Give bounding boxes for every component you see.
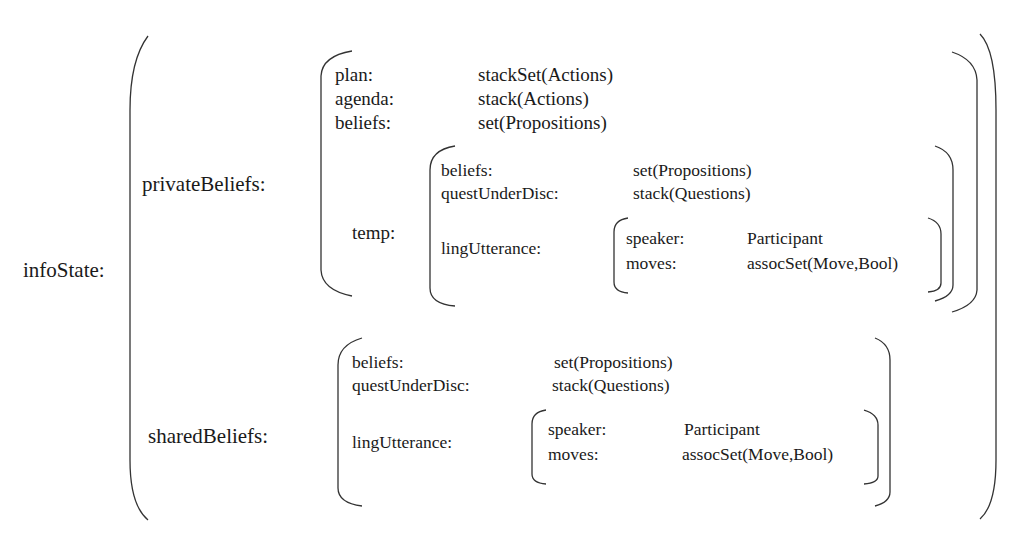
temp-questUnderDisc-key: questUnderDisc: [441, 185, 559, 203]
temp-beliefs-key: beliefs: [441, 162, 493, 180]
shared-speaker-value: Participant [684, 421, 760, 439]
sharedBeliefs-right-bracket [875, 338, 890, 506]
sharedBeliefs-label: sharedBeliefs: [148, 426, 268, 447]
privateBeliefs-right-bracket [952, 52, 977, 312]
shared-moves-value: assocSet(Move,Bool) [682, 446, 833, 464]
shared-questUnderDisc-key: questUnderDisc: [352, 377, 470, 395]
shared-lingUtterance-right-bracket [864, 410, 878, 484]
shared-lingUtterance-label: lingUtterance: [352, 434, 452, 452]
temp-right-bracket [935, 146, 953, 301]
plan-value: stackSet(Actions) [478, 65, 613, 84]
temp-beliefs-value: set(Propositions) [633, 162, 752, 180]
agenda-key: agenda: [335, 89, 394, 108]
agenda-value: stack(Actions) [478, 89, 589, 108]
temp-moves-key: moves: [626, 255, 677, 273]
shared-lingUtterance-left-bracket [532, 410, 546, 484]
shared-moves-key: moves: [548, 446, 599, 464]
shared-questUnderDisc-value: stack(Questions) [552, 377, 670, 395]
shared-speaker-key: speaker: [548, 421, 606, 439]
shared-beliefs-value: set(Propositions) [554, 354, 673, 372]
private-beliefs-value: set(Propositions) [478, 113, 607, 132]
temp-speaker-key: speaker: [626, 230, 684, 248]
private-beliefs-key: beliefs: [335, 113, 391, 132]
plan-key: plan: [335, 65, 373, 84]
temp-lingUtterance-label: lingUtterance: [441, 240, 541, 258]
temp-moves-value: assocSet(Move,Bool) [747, 255, 898, 273]
infoState-left-bracket [130, 36, 148, 520]
privateBeliefs-label: privateBeliefs: [142, 174, 266, 195]
temp-questUnderDisc-value: stack(Questions) [633, 185, 751, 203]
infoState-label: infoState: [23, 260, 105, 281]
temp-label: temp: [352, 223, 395, 242]
temp-speaker-value: Participant [747, 230, 823, 248]
shared-beliefs-key: beliefs: [352, 354, 404, 372]
infoState-right-bracket [980, 34, 996, 519]
temp-lingUtterance-right-bracket [928, 218, 941, 292]
